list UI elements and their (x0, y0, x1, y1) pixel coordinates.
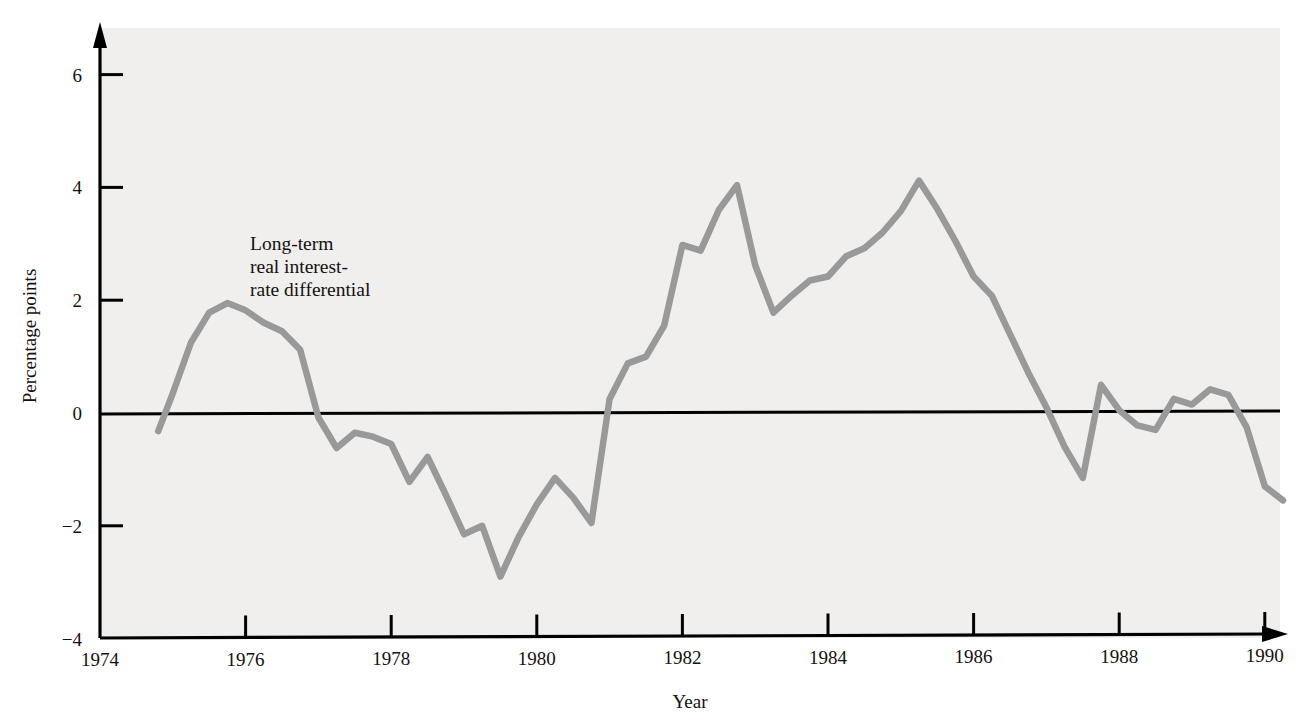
x-tick-label: 1984 (809, 647, 848, 668)
y-tick-label: 2 (73, 290, 83, 311)
plot-area-background (100, 28, 1280, 638)
x-tick-label: 1982 (663, 647, 701, 668)
y-tick-label: −2 (62, 516, 82, 537)
x-tick-label: 1980 (518, 648, 556, 669)
y-axis-title: Percentage points (19, 269, 40, 404)
x-tick-label: 1974 (81, 649, 120, 670)
x-axis-title: Year (672, 691, 708, 712)
y-tick-label: 0 (73, 403, 83, 424)
y-tick-label: 4 (73, 177, 83, 198)
x-tick-label: 1978 (372, 648, 410, 669)
x-tick-label: 1988 (1100, 646, 1138, 667)
annotation-line-2: real interest- (250, 256, 348, 277)
line-chart: −4−20246 1974197619781980198219841986198… (0, 0, 1309, 722)
annotation-line-3: rate differential (250, 279, 371, 300)
chart-figure: −4−20246 1974197619781980198219841986198… (0, 0, 1309, 722)
y-tick-label: −4 (62, 629, 83, 650)
annotation-line-1: Long-term (250, 233, 333, 254)
x-tick-label: 1990 (1246, 645, 1284, 666)
y-tick-label: 6 (73, 65, 83, 86)
x-tick-label: 1986 (955, 646, 993, 667)
x-tick-label: 1976 (227, 649, 265, 670)
